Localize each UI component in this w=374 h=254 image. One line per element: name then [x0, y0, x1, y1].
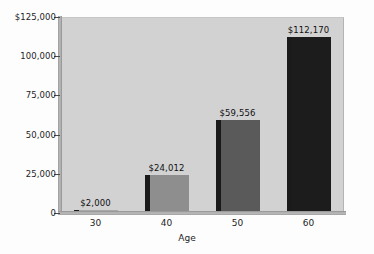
bar-body	[221, 120, 260, 213]
bar-value-label: $59,556	[220, 108, 256, 118]
y-tick-label: 50,000	[26, 130, 56, 140]
bar[interactable]: $59,556	[216, 120, 260, 213]
bar[interactable]: $112,170	[287, 37, 331, 213]
plot-area: $2,000$24,012$59,556$112,170	[60, 17, 344, 213]
y-tick-label: 25,000	[26, 169, 56, 179]
x-tick-label: 60	[303, 218, 314, 228]
bar[interactable]: $24,012	[145, 175, 189, 213]
y-tick-label: 0	[50, 208, 56, 218]
bar-body	[292, 37, 331, 213]
x-tick-label: 40	[161, 218, 172, 228]
x-tick-label: 30	[90, 218, 101, 228]
bar-chart: $2,000$24,012$59,556$112,170 025,00050,0…	[0, 0, 374, 254]
y-tick-label: $125,000	[15, 12, 56, 22]
bar-value-label: $2,000	[80, 198, 110, 208]
x-axis-title: Age	[0, 233, 374, 243]
y-tick-label: 100,000	[20, 51, 56, 61]
y-tick-label: 75,000	[26, 90, 56, 100]
bar-value-label: $112,170	[288, 25, 329, 35]
x-tick-label: 50	[232, 218, 243, 228]
bar-body	[150, 175, 189, 213]
bar-value-label: $24,012	[149, 163, 185, 173]
x-axis-line	[58, 211, 346, 215]
y-axis-line	[58, 16, 62, 214]
